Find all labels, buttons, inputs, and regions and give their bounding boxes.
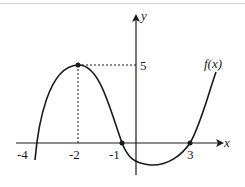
max-point: [76, 63, 81, 68]
tick-3: 3: [187, 147, 194, 162]
tick-neg2: -2: [69, 147, 80, 162]
function-label: f(x): [204, 56, 222, 71]
intercept-3: [188, 141, 193, 146]
tick-5: 5: [140, 58, 147, 73]
tick-neg1: -1: [109, 147, 120, 162]
y-axis-label: y: [139, 8, 147, 23]
tick-neg4: -4: [17, 147, 28, 162]
x-axis-label: x: [223, 135, 230, 150]
function-graph: y x 5 f(x) -4 -2 -1 3: [0, 0, 245, 187]
intercept-neg1: [120, 141, 125, 146]
